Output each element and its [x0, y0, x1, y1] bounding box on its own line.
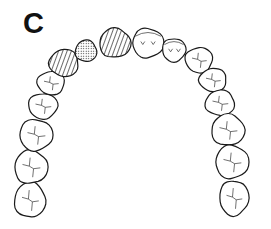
tooth-outline — [14, 181, 46, 216]
tooth-right-lateral-incisor — [163, 39, 186, 62]
tooth-outline — [100, 28, 131, 57]
tooth-left-lateral-incisor — [75, 40, 97, 62]
tooth-right-first-molar — [212, 113, 245, 144]
tooth-outline — [216, 145, 249, 179]
tooth-left-third-molar — [14, 181, 46, 216]
tooth-outline — [212, 113, 245, 144]
tooth-outline — [75, 40, 97, 62]
teeth-group — [14, 28, 249, 217]
tooth-right-central-incisor — [133, 28, 164, 58]
tooth-left-second-premolar — [29, 94, 59, 119]
tooth-outline — [15, 150, 48, 184]
tooth-left-second-molar — [15, 150, 48, 184]
tooth-right-second-molar — [216, 145, 249, 179]
tooth-left-first-molar — [20, 120, 53, 152]
tooth-left-central-incisor — [100, 28, 131, 57]
tooth-right-second-premolar — [205, 90, 235, 116]
tooth-right-third-molar — [220, 181, 249, 216]
tooth-outline — [163, 39, 186, 62]
dental-arch-diagram — [0, 0, 271, 229]
